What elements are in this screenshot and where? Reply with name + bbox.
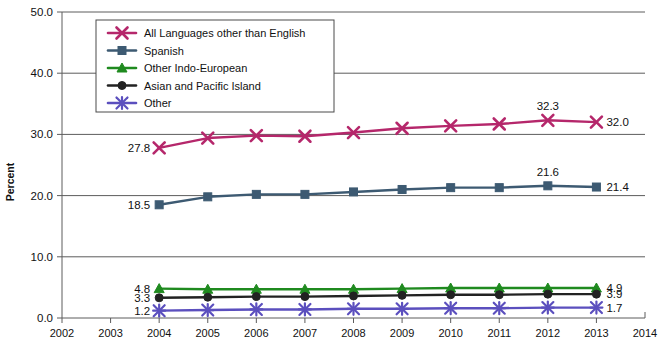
marker-circle [350,292,358,300]
marker-asterisk [250,303,262,315]
marker-circle [301,293,309,301]
xtick-label-2011: 2011 [487,327,511,339]
data-label-0-2012: 32.3 [537,100,559,112]
marker-circle [447,291,455,299]
marker-asterisk [299,303,311,315]
marker-circle [495,291,503,299]
ytick-label-0.0: 0.0 [37,312,53,324]
marker-asterisk [116,97,128,109]
xtick-label-2009: 2009 [390,327,414,339]
data-label-1-2012: 21.6 [537,166,559,178]
ytick-label-10.0: 10.0 [31,251,53,263]
legend-label-0: All Languages other than English [144,27,305,39]
series-group [153,115,602,317]
legend-label-3: Asian and Pacific Island [144,80,261,92]
series-2 [154,283,601,293]
marker-circle [544,290,552,298]
marker-asterisk [493,302,505,314]
xtick-label-2003: 2003 [98,327,122,339]
marker-asterisk [542,302,554,314]
xtick-label-2005: 2005 [196,327,220,339]
marker-circle [155,294,163,302]
xtick-label-2014: 2014 [633,327,657,339]
data-label-1-2004: 18.5 [128,199,150,211]
marker-asterisk [396,303,408,315]
ytick-label-40.0: 40.0 [31,67,53,79]
marker-asterisk [445,302,457,314]
chart-container: 0.010.020.030.040.050.020022003200420052… [0,0,658,340]
marker-square [398,185,406,193]
xtick-label-2010: 2010 [438,327,462,339]
data-label-3-2013: 3.9 [606,288,622,300]
marker-square [447,184,455,192]
xtick-label-2008: 2008 [341,327,365,339]
marker-square [118,47,126,55]
marker-circle [252,293,260,301]
ytick-label-20.0: 20.0 [31,190,53,202]
marker-square [544,182,552,190]
xtick-label-2006: 2006 [244,327,268,339]
marker-asterisk [348,303,360,315]
data-label-0-2004: 27.8 [128,142,150,154]
xtick-label-2013: 2013 [584,327,608,339]
legend-label-1: Spanish [144,45,184,57]
marker-circle [398,291,406,299]
data-label-0-2013: 32.0 [606,116,628,128]
data-label-4-2004: 1.2 [134,305,150,317]
marker-square [252,190,260,198]
marker-square [301,190,309,198]
marker-circle [592,290,600,298]
marker-square [592,183,600,191]
series-4 [153,302,602,317]
legend-item-1[interactable]: Spanish [108,45,184,57]
marker-square [155,201,163,209]
series-3 [155,290,600,302]
marker-asterisk [202,304,214,316]
series-line-4 [159,308,596,311]
series-line-2 [159,288,596,289]
legend-label-4: Other [144,97,172,109]
data-label-4-2013: 1.7 [606,302,622,314]
xtick-label-2004: 2004 [147,327,171,339]
marker-square [495,184,503,192]
marker-circle [118,82,126,90]
xtick-label-2002: 2002 [50,327,74,339]
series-line-3 [159,294,596,298]
marker-asterisk [153,305,165,317]
legend-label-2: Other Indo-European [144,62,247,74]
data-label-1-2013: 21.4 [606,181,629,193]
line-chart-plot: 0.010.020.030.040.050.020022003200420052… [0,0,658,340]
ytick-label-50.0: 50.0 [31,6,53,18]
marker-asterisk [590,302,602,314]
xtick-label-2007: 2007 [293,327,317,339]
data-label-3-2004: 3.3 [134,292,150,304]
marker-square [204,193,212,201]
marker-square [350,188,358,196]
legend: All Languages other than EnglishSpanishO… [96,20,334,112]
ytick-label-30.0: 30.0 [31,128,53,140]
marker-circle [204,293,212,301]
y-axis-title: Percent [4,162,16,201]
xtick-label-2012: 2012 [536,327,560,339]
